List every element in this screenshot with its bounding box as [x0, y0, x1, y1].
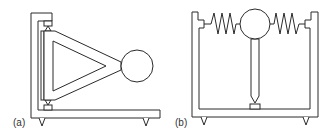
panel-a-label: (a): [13, 117, 25, 128]
panel-b-drawing: [192, 9, 318, 125]
panel-b-right-spring: [270, 13, 305, 34]
panel-b-right-foot-icon: [303, 117, 309, 125]
panel-b-left-spring: [204, 13, 240, 34]
panel-b-mass-circle: [240, 9, 270, 39]
panel-b-rod: [251, 39, 259, 103]
panel-a-left-foot-icon: [39, 118, 45, 126]
panel-a-upper-pivot-icon: [45, 26, 51, 31]
panel-a-lower-pivot-icon: [45, 100, 51, 105]
panel-a-right-foot-icon: [143, 118, 149, 126]
panel-a-drawing: [31, 13, 160, 126]
panel-b-label: (b): [175, 117, 187, 128]
panel-b-left-foot-icon: [201, 117, 207, 125]
panel-a-mass-circle: [121, 50, 153, 82]
figure-canvas: [0, 0, 335, 137]
panel-b-pivot-block: [250, 104, 260, 109]
